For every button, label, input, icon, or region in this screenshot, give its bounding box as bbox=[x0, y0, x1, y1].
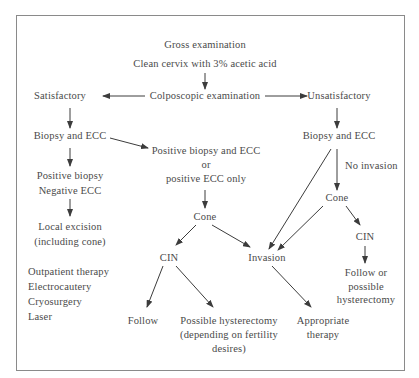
arrow-cin-to-follow bbox=[147, 266, 163, 307]
node-colposcopic-examination: Colposcopic examination bbox=[150, 89, 260, 103]
node-positive-biopsy-and-ecc: Positive biopsy and ECC bbox=[152, 144, 261, 158]
node-follow: Follow bbox=[128, 314, 159, 328]
list-electrocautery: Electrocautery bbox=[28, 280, 91, 294]
node-cone-middle: Cone bbox=[194, 210, 217, 224]
arrow-cone-right-to-invasion bbox=[278, 206, 323, 250]
node-invasion: Invasion bbox=[248, 251, 285, 265]
node-biopsy-ecc-left: Biopsy and ECC bbox=[34, 129, 107, 143]
arrow-cin-to-hysterectomy bbox=[176, 266, 213, 307]
arrow-cone-right-to-cin bbox=[346, 206, 360, 225]
arrow-biopsy-to-positive-both bbox=[110, 138, 148, 148]
node-biopsy-ecc-right: Biopsy and ECC bbox=[303, 129, 376, 143]
node-gross-examination: Gross examination bbox=[164, 38, 246, 52]
list-outpatient-therapy: Outpatient therapy bbox=[28, 265, 109, 279]
node-satisfactory: Satisfactory bbox=[34, 89, 86, 103]
node-or: or bbox=[201, 158, 210, 172]
node-negative-ecc: Negative ECC bbox=[39, 184, 102, 198]
node-appropriate: Appropriate bbox=[297, 314, 349, 328]
node-clean-cervix: Clean cervix with 3% acetic acid bbox=[133, 57, 276, 71]
node-positive-biopsy: Positive biopsy bbox=[37, 169, 104, 183]
node-cin-middle: CIN bbox=[160, 251, 179, 265]
node-cin-right: CIN bbox=[356, 230, 375, 244]
node-depending-on-fertility: (depending on fertility bbox=[180, 328, 278, 342]
node-local-excision: Local excision bbox=[38, 220, 102, 234]
node-possible: possible bbox=[348, 280, 384, 294]
list-cryosurgery: Cryosurgery bbox=[28, 295, 82, 309]
node-including-cone: (including cone) bbox=[34, 235, 106, 249]
list-laser: Laser bbox=[28, 310, 52, 324]
arrow-cone-to-cin bbox=[176, 225, 196, 245]
node-possible-hysterectomy: Possible hysterectomy bbox=[180, 314, 277, 328]
node-positive-ecc-only: positive ECC only bbox=[166, 172, 246, 186]
arrow-cone-to-invasion bbox=[212, 225, 250, 247]
node-unsatisfactory: Unsatisfactory bbox=[307, 89, 370, 103]
node-hysterectomy: hysterectomy bbox=[337, 293, 395, 307]
arrow-invasion-to-therapy bbox=[272, 266, 311, 307]
node-therapy: therapy bbox=[307, 328, 340, 342]
node-follow-or: Follow or bbox=[345, 266, 387, 280]
node-cone-right: Cone bbox=[326, 191, 349, 205]
label-no-invasion: No invasion bbox=[345, 159, 398, 173]
node-desires: desires) bbox=[212, 342, 246, 356]
arrow-biopsy-to-invasion bbox=[269, 149, 331, 249]
